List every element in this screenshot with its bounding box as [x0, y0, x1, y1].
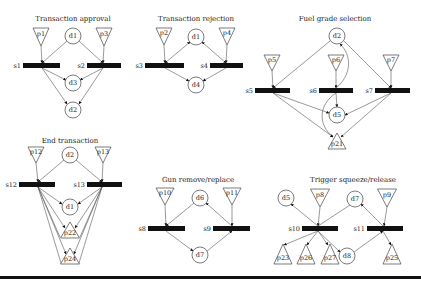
place-label: p9 [383, 191, 391, 199]
arc [166, 203, 194, 226]
arc [272, 71, 273, 88]
data-place-label: d1 [192, 33, 200, 41]
arc [203, 68, 226, 81]
place-label: p27 [324, 254, 336, 262]
data-place-label: d5 [282, 194, 290, 202]
arc [165, 42, 190, 63]
arc [336, 93, 337, 107]
arc [103, 46, 104, 63]
transition-bar [145, 63, 184, 68]
transition-label: s2 [78, 62, 85, 70]
subnet-title: Transaction rejection [158, 15, 234, 23]
place-label: p8 [316, 191, 324, 199]
place-label: p1 [37, 30, 45, 38]
place-label: p4 [223, 29, 231, 37]
transition-label: s5 [246, 87, 253, 95]
transition-bar [319, 88, 353, 93]
place-label: p26 [300, 254, 312, 262]
place-label: p21 [331, 140, 343, 148]
subnet-fuel-grade-selection: Fuel grade selectionp5p6p7p21d2d5s5s6s7 [246, 15, 410, 149]
arc [38, 187, 61, 263]
subnet-transaction-approval: Transaction approvalp1p3d1d3d2s1s2 [14, 15, 121, 118]
data-place-label: d7 [196, 251, 204, 259]
subnet-title: Fuel grade selection [299, 15, 372, 23]
arc [38, 160, 64, 182]
data-place-label: d2 [69, 106, 77, 114]
arc [207, 231, 232, 251]
data-place-label: d8 [343, 252, 351, 260]
subnet-gun-remove-replace: Gun remove/replacep10p11d6d7s8s9 [139, 176, 250, 263]
arc [344, 41, 391, 88]
arc [76, 160, 102, 182]
arc [206, 203, 232, 226]
transition-label: s11 [353, 225, 365, 233]
data-place-label: d1 [69, 32, 77, 40]
arc [226, 45, 227, 63]
arc [318, 231, 328, 245]
transition-bar [19, 182, 55, 187]
arc [291, 204, 318, 226]
place-label: p22 [64, 229, 76, 237]
arc [42, 68, 66, 80]
transition-bar [148, 226, 185, 231]
transition-bar [213, 226, 250, 231]
data-place-label: d7 [351, 195, 359, 203]
subnet-trigger-squeeze-release: Trigger squeeze/releasep8p9p23p26p27p25d… [274, 176, 403, 264]
place-label: p25 [386, 254, 398, 262]
arc [42, 68, 67, 104]
transition-label: s6 [310, 87, 317, 95]
place-label: p12 [30, 148, 42, 156]
arc [38, 187, 65, 228]
arc [36, 163, 38, 182]
arc [284, 231, 318, 245]
arc [361, 204, 383, 226]
arc [383, 231, 391, 245]
place-label: p11 [226, 189, 238, 197]
transition-label: s8 [139, 225, 146, 233]
transition-bar [87, 182, 122, 187]
transition-label: s7 [366, 87, 373, 95]
place-label: p3 [100, 30, 108, 38]
transition-label: s4 [201, 62, 208, 70]
transition-bar [255, 88, 290, 93]
data-place-label: d1 [66, 203, 74, 211]
data-place-label: d6 [196, 194, 204, 202]
arc [42, 41, 67, 63]
subnet-title: Gun remove/replace [162, 176, 234, 184]
arc [41, 46, 42, 63]
arc [75, 187, 102, 228]
arc [384, 207, 387, 226]
place-label: p2 [160, 29, 168, 37]
arc [318, 207, 320, 226]
arc [273, 93, 333, 137]
transition-bar [375, 88, 410, 93]
subnet-title: Trigger squeeze/release [310, 176, 396, 184]
arc [318, 205, 350, 226]
subnet-groups: Transaction approvalp1p3d1d3d2s1s2Transa… [5, 15, 410, 264]
arc [164, 45, 165, 63]
arc [354, 231, 383, 252]
arc [79, 187, 102, 263]
subnet-title: Transaction approval [35, 15, 111, 23]
place-label: p13 [97, 148, 109, 156]
subnet-title: End transaction [42, 137, 99, 145]
transition-label: s10 [288, 225, 300, 233]
place-label: p24 [64, 255, 76, 263]
transition-bar [302, 226, 338, 231]
place-label: p6 [332, 56, 340, 64]
transition-label: s1 [14, 62, 21, 70]
data-place-label: d2 [333, 32, 341, 40]
transition-label: s9 [204, 225, 211, 233]
transition-label: s3 [136, 62, 143, 70]
place-label: p7 [387, 56, 395, 64]
transition-bar [23, 63, 60, 68]
arc [79, 41, 103, 63]
transition-label: s13 [73, 181, 85, 189]
arc [202, 42, 226, 63]
arc [102, 163, 103, 182]
arc [80, 68, 103, 80]
place-label: p10 [159, 189, 171, 197]
data-place-label: d4 [192, 81, 200, 89]
arc [273, 93, 329, 113]
petri-net-figure: Transaction approvalp1p3d1d3d2s1s2Transa… [0, 0, 421, 284]
